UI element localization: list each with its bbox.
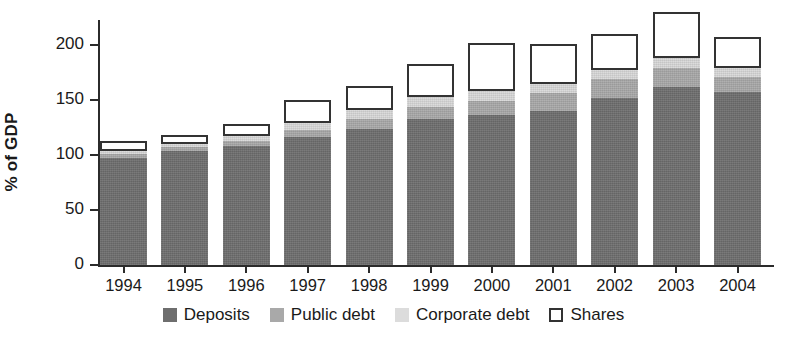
x-tick-mark (675, 265, 677, 273)
bar-segment-deposits (714, 92, 761, 265)
x-tick-label: 1999 (401, 277, 461, 294)
x-tick-label: 1994 (94, 277, 154, 294)
bar-segment-public-debt (591, 79, 638, 98)
bar-segment-shares (407, 64, 454, 97)
bar-group (223, 15, 270, 265)
bar-segment-shares (100, 141, 147, 151)
y-tick-mark (90, 44, 99, 46)
x-tick-label: 2004 (708, 277, 768, 294)
y-tick-label: 100 (16, 145, 84, 163)
bar-segment-shares (653, 12, 700, 58)
deposits-swatch (163, 308, 177, 322)
bar-group (653, 15, 700, 265)
bar-segment-corporate-debt (714, 68, 761, 77)
bar-group (161, 15, 208, 265)
bar-segment-corporate-debt (407, 97, 454, 107)
x-tick-mark (430, 265, 432, 273)
x-tick-label: 1996 (216, 277, 276, 294)
x-tick-mark (491, 265, 493, 273)
bar-segment-public-debt (530, 93, 577, 111)
y-tick-label: 50 (16, 200, 84, 218)
x-tick-label: 2000 (462, 277, 522, 294)
x-tick-label: 2002 (585, 277, 645, 294)
bar-segment-public-debt (284, 130, 331, 138)
bar-segment-corporate-debt (284, 123, 331, 130)
x-tick-label: 1995 (155, 277, 215, 294)
bar-segment-public-debt (653, 68, 700, 87)
y-tick-mark (90, 209, 99, 211)
bar-segment-deposits (161, 151, 208, 265)
bar-segment-deposits (346, 129, 393, 265)
bar-segment-corporate-debt (161, 144, 208, 147)
x-tick-label: 1997 (278, 277, 338, 294)
x-tick-mark (245, 265, 247, 273)
x-tick-mark (184, 265, 186, 273)
bar-segment-deposits (100, 158, 147, 265)
y-tick-label-text: 100 (24, 145, 84, 162)
bar-segment-deposits (530, 111, 577, 265)
legend-item: Shares (549, 306, 624, 323)
y-tick-label-text: 200 (24, 35, 84, 52)
y-tick-mark (90, 154, 99, 156)
y-tick-label: 150 (16, 90, 84, 108)
public-debt-swatch (270, 308, 284, 322)
y-tick-mark (90, 99, 99, 101)
x-tick-mark (123, 265, 125, 273)
bar-segment-corporate-debt (468, 91, 515, 101)
bar-segment-corporate-debt (653, 58, 700, 68)
legend-item: Corporate debt (395, 306, 529, 323)
bar-segment-corporate-debt (346, 110, 393, 119)
bar-segment-shares (530, 44, 577, 84)
chart-legend: DepositsPublic debtCorporate debtShares (0, 306, 787, 323)
x-tick-label: 1998 (339, 277, 399, 294)
bar-segment-public-debt (468, 101, 515, 115)
stacked-bar-chart: % of GDP 050100150200 199419951996199719… (0, 0, 787, 338)
x-tick-label: 2001 (523, 277, 583, 294)
bar-segment-public-debt (223, 141, 270, 147)
legend-item-label: Public debt (291, 306, 375, 323)
bar-segment-public-debt (100, 154, 147, 158)
corporate-debt-swatch (395, 308, 409, 322)
bar-group (100, 15, 147, 265)
x-axis-line (98, 265, 774, 267)
bar-segment-shares (223, 124, 270, 136)
bar-segment-shares (714, 37, 761, 68)
bar-segment-corporate-debt (223, 136, 270, 140)
legend-item-label: Deposits (184, 306, 250, 323)
bar-segment-corporate-debt (530, 84, 577, 94)
y-tick-label-text: 50 (24, 200, 84, 217)
bar-segment-shares (468, 43, 515, 91)
bar-segment-public-debt (161, 147, 208, 150)
bar-group (468, 15, 515, 265)
bar-segment-corporate-debt (591, 70, 638, 79)
x-tick-mark (368, 265, 370, 273)
bar-segment-deposits (653, 87, 700, 265)
bar-segment-deposits (223, 146, 270, 265)
bar-group (407, 15, 454, 265)
bar-segment-public-debt (714, 77, 761, 92)
bar-segment-shares (161, 135, 208, 144)
bar-segment-public-debt (407, 107, 454, 119)
bar-segment-corporate-debt (100, 151, 147, 154)
y-tick-label-text: 0 (24, 255, 84, 272)
x-tick-mark (737, 265, 739, 273)
x-tick-label: 2003 (646, 277, 706, 294)
bar-segment-deposits (468, 115, 515, 265)
bar-segment-deposits (591, 98, 638, 265)
x-tick-mark (307, 265, 309, 273)
x-tick-mark (552, 265, 554, 273)
legend-item: Public debt (270, 306, 375, 323)
y-tick-label-text: 150 (24, 90, 84, 107)
bar-segment-deposits (284, 137, 331, 265)
y-tick-label: 200 (16, 35, 84, 53)
legend-item-label: Corporate debt (416, 306, 529, 323)
bar-segment-public-debt (346, 119, 393, 129)
bar-segment-shares (284, 100, 331, 123)
y-tick-mark (90, 264, 99, 266)
bar-group (346, 15, 393, 265)
x-tick-mark (614, 265, 616, 273)
bar-segment-shares (346, 86, 393, 110)
bar-group (591, 15, 638, 265)
bar-group (284, 15, 331, 265)
bar-segment-shares (591, 34, 638, 70)
